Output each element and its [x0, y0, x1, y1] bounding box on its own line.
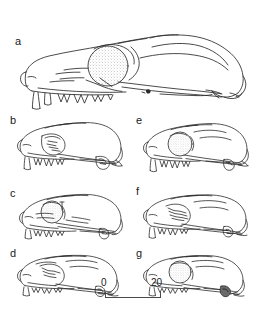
panel-a: a	[0, 14, 256, 106]
panel-label-e: e	[136, 115, 142, 126]
skull-drawing-a	[0, 14, 256, 106]
panel-f: f	[128, 182, 256, 246]
scale-bar-line	[105, 297, 161, 298]
panel-label-d: d	[10, 248, 16, 259]
scale-tick-end	[160, 292, 161, 297]
panel-label-c: c	[10, 188, 16, 199]
panel-label-a: a	[15, 36, 21, 47]
skull-drawing-b	[0, 108, 128, 180]
skull-drawing-c	[0, 182, 128, 246]
panel-c: c	[0, 182, 128, 246]
scale-tick-start	[105, 292, 106, 297]
panel-e: e	[128, 108, 256, 180]
panel-label-b: b	[10, 115, 16, 126]
panel-label-f: f	[136, 186, 139, 197]
figure-plate: a	[0, 0, 256, 312]
skull-drawing-e	[128, 108, 256, 180]
scale-bar: 0 20	[95, 278, 185, 306]
panel-b: b	[0, 108, 128, 180]
scale-start-label: 0	[101, 278, 107, 288]
panel-label-g: g	[136, 248, 142, 259]
skull-drawing-f	[128, 182, 256, 246]
scale-end-label: 20	[151, 278, 162, 288]
